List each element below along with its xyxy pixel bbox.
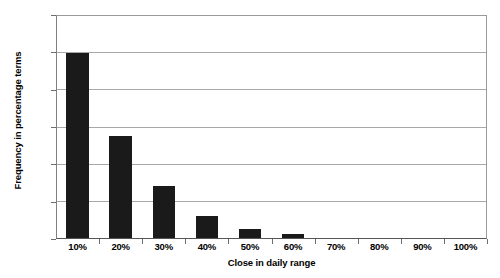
- bar: [153, 186, 175, 238]
- y-axis-title: Frequency in percentage terms: [12, 11, 23, 231]
- bars-layer: [57, 16, 485, 238]
- y-tick-mark: [51, 239, 56, 240]
- bar: [109, 136, 131, 238]
- bar: [282, 234, 304, 238]
- bar: [66, 53, 88, 238]
- x-tick-mark: [487, 239, 488, 244]
- bar-chart: Frequency in percentage terms 0%10%20%30…: [0, 0, 500, 278]
- x-axis-title: Close in daily range: [56, 257, 487, 268]
- bar: [196, 216, 218, 238]
- bar: [239, 229, 261, 238]
